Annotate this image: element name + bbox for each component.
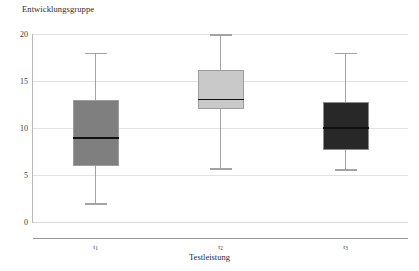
y-tick-label-20: 20 [20, 30, 28, 39]
chart-title: Entwicklungsgruppe [22, 4, 94, 14]
whisker-cap-lower-t3 [335, 169, 357, 171]
x-tick-label-t3: t3 [343, 243, 348, 251]
boxplot-chart: Entwicklungsgruppe 05101520 Testleistung… [0, 0, 419, 271]
y-tick-label-10: 10 [20, 124, 28, 133]
y-tick-label-5: 5 [24, 171, 28, 180]
x-axis-title: Testleistung [0, 252, 419, 262]
box-t3 [33, 34, 408, 222]
y-tick-label-0: 0 [24, 218, 28, 227]
x-axis-line [33, 238, 408, 239]
gridline-0 [33, 222, 408, 223]
box-body-t3 [323, 102, 369, 150]
x-tick-label-t1: t1 [93, 243, 98, 251]
whisker-cap-upper-t3 [335, 53, 357, 55]
whisker-lower-t3 [345, 150, 346, 170]
y-axis-tick-labels: 05101520 [0, 0, 28, 271]
median-line-t3 [323, 127, 369, 129]
y-tick-label-15: 15 [20, 77, 28, 86]
whisker-upper-t3 [345, 53, 346, 102]
plot-area [33, 34, 408, 222]
x-tick-label-t2: t2 [218, 243, 223, 251]
